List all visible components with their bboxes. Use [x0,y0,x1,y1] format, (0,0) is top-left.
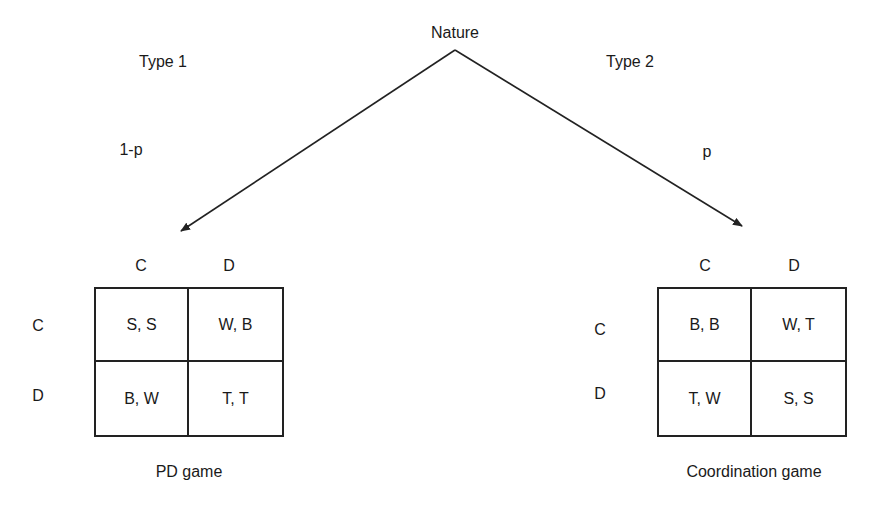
type-2-label: Type 2 [606,53,654,71]
pd-row-header-c: C [32,317,44,335]
coord-cell-dc: T, W [659,362,752,435]
pd-payoff-matrix: S, S W, B B, W T, T [94,287,284,437]
pd-game-title: PD game [156,463,223,481]
coord-cell-cc: B, B [659,289,752,362]
coord-row-header-c: C [594,321,606,339]
coord-cell-cd: W, T [752,289,845,362]
branch-arrow-type-2 [455,50,742,226]
pd-col-header-d: D [223,257,235,275]
pd-cell-cc: S, S [96,289,189,362]
pd-col-header-c: C [135,257,147,275]
probability-type-2: p [703,143,712,161]
coordination-payoff-matrix: B, B W, T T, W S, S [657,287,847,437]
pd-cell-dc: B, W [96,362,189,435]
pd-cell-cd: W, B [189,289,282,362]
coordination-game-title: Coordination game [686,463,821,481]
coord-row-header-d: D [594,385,606,403]
nature-node-label: Nature [431,24,479,42]
coord-cell-dd: S, S [752,362,845,435]
branch-arrow-type-1 [181,50,455,231]
type-1-label: Type 1 [139,53,187,71]
coord-col-header-d: D [788,257,800,275]
pd-row-header-d: D [32,387,44,405]
coord-col-header-c: C [699,257,711,275]
probability-type-1: 1-p [119,141,142,159]
pd-cell-dd: T, T [189,362,282,435]
